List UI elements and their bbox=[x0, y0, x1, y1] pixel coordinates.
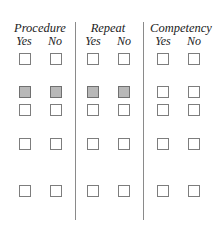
checkbox-row2-procedure-no[interactable] bbox=[50, 86, 62, 98]
checkbox-row2-repeat-no[interactable] bbox=[118, 86, 130, 98]
checkbox-row1-procedure-yes[interactable] bbox=[19, 53, 31, 65]
checkbox-row5-procedure-yes[interactable] bbox=[19, 185, 31, 197]
checkbox-row2-repeat-yes[interactable] bbox=[87, 86, 99, 98]
checkbox-row1-repeat-yes[interactable] bbox=[87, 53, 99, 65]
checkbox-row3-procedure-yes[interactable] bbox=[19, 104, 31, 116]
checkbox-row4-repeat-no[interactable] bbox=[118, 138, 130, 150]
checkbox-row3-competency-no[interactable] bbox=[188, 104, 200, 116]
repeat-yes-label: Yes bbox=[78, 34, 108, 48]
checkbox-row4-competency-yes[interactable] bbox=[157, 138, 169, 150]
checkbox-row5-procedure-no[interactable] bbox=[50, 185, 62, 197]
divider-repeat-competency bbox=[143, 22, 144, 220]
checkbox-row5-repeat-no[interactable] bbox=[118, 185, 130, 197]
checkbox-row4-procedure-yes[interactable] bbox=[19, 138, 31, 150]
checkbox-row4-competency-no[interactable] bbox=[188, 138, 200, 150]
section-title-procedure: Procedure bbox=[10, 21, 70, 35]
checkbox-row2-competency-yes[interactable] bbox=[157, 86, 169, 98]
checkbox-row1-competency-no[interactable] bbox=[188, 53, 200, 65]
checkbox-row2-procedure-yes[interactable] bbox=[19, 86, 31, 98]
section-title-repeat: Repeat bbox=[78, 21, 138, 35]
competency-no-label: No bbox=[179, 34, 209, 48]
competency-yes-label: Yes bbox=[148, 34, 178, 48]
section-title-competency: Competency bbox=[146, 21, 216, 35]
checkbox-row4-procedure-no[interactable] bbox=[50, 138, 62, 150]
checkbox-row2-competency-no[interactable] bbox=[188, 86, 200, 98]
checkbox-row5-repeat-yes[interactable] bbox=[87, 185, 99, 197]
checkbox-row3-repeat-yes[interactable] bbox=[87, 104, 99, 116]
checkbox-row5-competency-no[interactable] bbox=[188, 185, 200, 197]
divider-procedure-repeat bbox=[75, 22, 76, 220]
checkbox-row1-procedure-no[interactable] bbox=[50, 53, 62, 65]
checkbox-row4-repeat-yes[interactable] bbox=[87, 138, 99, 150]
procedure-no-label: No bbox=[40, 34, 70, 48]
checkbox-row1-repeat-no[interactable] bbox=[118, 53, 130, 65]
checkbox-row3-procedure-no[interactable] bbox=[50, 104, 62, 116]
checkbox-row5-competency-yes[interactable] bbox=[157, 185, 169, 197]
checkbox-row3-repeat-no[interactable] bbox=[118, 104, 130, 116]
checkbox-row3-competency-yes[interactable] bbox=[157, 104, 169, 116]
checkbox-row1-competency-yes[interactable] bbox=[157, 53, 169, 65]
repeat-no-label: No bbox=[109, 34, 139, 48]
procedure-yes-label: Yes bbox=[9, 34, 39, 48]
